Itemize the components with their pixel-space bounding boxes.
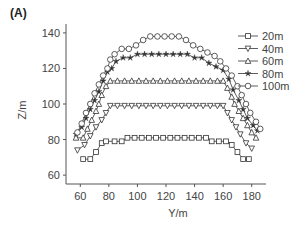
data-point-100m (126, 46, 132, 52)
x-tick-label: 160 (214, 190, 232, 202)
data-point-20m (241, 157, 246, 162)
data-point-80m (149, 51, 155, 57)
legend-label: 20m (262, 30, 283, 42)
data-point-80m (213, 63, 219, 69)
data-point-20m (119, 139, 124, 144)
x-tick-label: 60 (74, 190, 86, 202)
data-point-40m (237, 132, 243, 137)
data-point-20m (132, 135, 137, 140)
data-point-60m (89, 117, 95, 122)
data-point-100m (247, 110, 253, 116)
data-point-80m (134, 51, 140, 57)
data-point-100m (112, 51, 118, 57)
data-point-40m (82, 142, 88, 147)
data-point-20m (182, 135, 187, 140)
data-point-80m (184, 51, 190, 57)
line-chart: 60801001201401601806080100120140Y/mZ/m20… (0, 0, 306, 232)
data-point-80m (156, 51, 162, 57)
data-point-100m (190, 43, 196, 49)
y-axis-title: Z/m (16, 101, 28, 120)
data-point-20m (146, 135, 151, 140)
legend-marker-20m (246, 34, 251, 39)
data-point-60m (232, 101, 238, 106)
data-point-20m (229, 142, 234, 147)
x-tick-label: 80 (103, 190, 115, 202)
data-point-20m (216, 139, 221, 144)
data-point-100m (140, 37, 146, 43)
data-point-60m (245, 122, 251, 127)
data-point-100m (212, 53, 218, 59)
data-point-20m (161, 135, 166, 140)
data-point-100m (79, 121, 85, 127)
x-axis-title: Y/m (168, 207, 188, 219)
x-tick-label: 100 (128, 190, 146, 202)
data-point-20m (235, 150, 240, 155)
data-point-100m (147, 34, 153, 40)
data-point-100m (205, 50, 211, 56)
legend-label: 80m (262, 68, 283, 80)
legend-label: 100m (262, 80, 290, 92)
data-point-100m (133, 43, 139, 49)
x-tick-label: 180 (243, 190, 261, 202)
y-tick-label: 140 (42, 27, 60, 39)
data-point-20m (189, 135, 194, 140)
data-point-20m (175, 135, 180, 140)
legend-marker-100m (245, 83, 251, 89)
data-point-60m (225, 85, 231, 90)
data-point-40m (93, 125, 99, 130)
data-point-20m (112, 139, 117, 144)
data-point-100m (83, 110, 89, 116)
data-point-20m (104, 139, 109, 144)
data-point-40m (87, 134, 93, 139)
data-point-80m (163, 51, 169, 57)
data-point-40m (233, 125, 239, 130)
data-point-80m (120, 55, 126, 61)
data-point-60m (249, 129, 255, 134)
x-tick-label: 120 (157, 190, 175, 202)
legend-label: 40m (262, 43, 283, 55)
legend-label: 60m (262, 55, 283, 67)
data-point-80m (177, 51, 183, 57)
data-point-100m (176, 34, 182, 40)
data-point-20m (81, 157, 86, 162)
data-point-100m (155, 34, 161, 40)
data-point-100m (229, 73, 235, 79)
data-point-40m (229, 118, 235, 123)
data-point-100m (169, 34, 175, 40)
data-point-20m (154, 135, 159, 140)
y-tick-label: 80 (48, 134, 60, 146)
data-point-100m (107, 57, 113, 63)
data-point-80m (113, 58, 119, 64)
data-point-80m (192, 55, 198, 61)
data-point-100m (87, 101, 93, 107)
y-tick-label: 60 (48, 169, 60, 181)
data-point-100m (92, 91, 98, 97)
data-point-100m (257, 126, 263, 132)
data-point-40m (225, 110, 231, 115)
data-point-100m (183, 37, 189, 43)
data-point-100m (217, 59, 223, 65)
data-point-100m (96, 82, 102, 88)
data-point-60m (85, 126, 91, 131)
data-point-20m (196, 135, 201, 140)
data-point-100m (223, 66, 229, 72)
data-point-100m (239, 92, 245, 98)
data-point-20m (168, 135, 173, 140)
legend-marker-80m (245, 70, 251, 76)
data-point-60m (229, 94, 235, 99)
data-point-100m (119, 46, 125, 52)
data-point-20m (209, 139, 214, 144)
y-tick-label: 100 (42, 98, 60, 110)
data-point-60m (96, 101, 102, 106)
data-point-100m (162, 34, 168, 40)
data-point-20m (139, 135, 144, 140)
data-point-100m (243, 101, 249, 107)
x-tick-label: 140 (185, 190, 203, 202)
data-point-20m (125, 135, 130, 140)
data-point-80m (127, 55, 133, 61)
data-point-20m (94, 150, 99, 155)
data-point-20m (88, 157, 93, 162)
data-point-100m (100, 73, 106, 79)
data-point-100m (197, 46, 203, 52)
data-point-100m (75, 130, 81, 136)
